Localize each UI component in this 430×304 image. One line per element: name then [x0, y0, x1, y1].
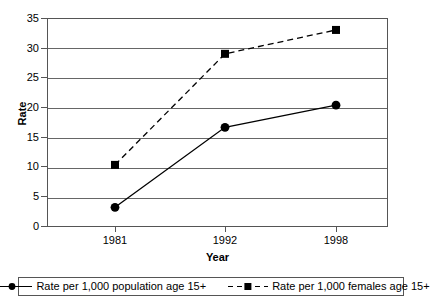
gridline-15	[48, 138, 387, 139]
y-axis: 35 30 25 20 15 10 5 0	[0, 0, 47, 304]
gridline-30	[48, 48, 387, 49]
x-tick-label-1992: 1992	[195, 235, 255, 246]
x-tick-label-1998: 1998	[306, 235, 366, 246]
x-tick-mark-1998	[336, 227, 337, 232]
circle-marker-icon	[0, 281, 32, 292]
y-tick-label-35: 35	[27, 13, 39, 24]
y-tick-label-15: 15	[27, 132, 39, 143]
x-tick-mark-1981	[115, 227, 116, 232]
y-tick-label-25: 25	[27, 72, 39, 83]
y-tick-label-20: 20	[27, 102, 39, 113]
legend-label-population: Rate per 1,000 population age 15+	[36, 281, 206, 292]
x-axis-title: Year	[47, 252, 388, 263]
gridline-20	[48, 108, 387, 109]
y-tick-mark-25	[41, 77, 47, 78]
gridline-10	[48, 168, 387, 169]
y-tick-label-0: 0	[33, 221, 39, 232]
y-tick-mark-35	[41, 18, 47, 19]
y-tick-mark-20	[41, 107, 47, 108]
legend-entry-females[interactable]: Rate per 1,000 females age 15+	[228, 281, 429, 292]
chart-legend: Rate per 1,000 population age 15+ Rate p…	[18, 277, 404, 296]
x-tick-mark-1992	[225, 227, 226, 232]
legend-entry-population[interactable]: Rate per 1,000 population age 15+	[0, 281, 206, 292]
y-axis-title: Rate	[17, 84, 28, 144]
plot-area	[47, 18, 388, 227]
y-tick-label-5: 5	[33, 191, 39, 202]
y-tick-label-30: 30	[27, 43, 39, 54]
y-tick-mark-0	[41, 226, 47, 227]
gridline-5	[48, 198, 387, 199]
y-tick-mark-15	[41, 137, 47, 138]
y-tick-mark-30	[41, 48, 47, 49]
y-tick-label-10: 10	[27, 161, 39, 172]
x-tick-label-1981: 1981	[85, 235, 145, 246]
legend-label-females: Rate per 1,000 females age 15+	[272, 281, 429, 292]
square-marker-icon	[228, 281, 268, 292]
y-tick-mark-10	[41, 166, 47, 167]
gridline-25	[48, 78, 387, 79]
y-tick-mark-5	[41, 196, 47, 197]
